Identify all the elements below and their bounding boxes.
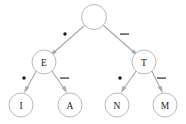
edge-label-e-a-dash bbox=[60, 77, 69, 79]
edge-label-e-i-dot bbox=[22, 76, 25, 79]
edge-label-root-e-dot bbox=[63, 32, 66, 35]
edge-label-t-m-dash bbox=[157, 77, 166, 79]
edge-line-root-t bbox=[104, 26, 137, 55]
node-m[interactable]: M bbox=[153, 93, 177, 117]
node-a-label: A bbox=[67, 101, 74, 111]
node-root-circle[interactable] bbox=[82, 5, 107, 30]
edge-label-root-t-dash bbox=[120, 33, 129, 35]
node-i[interactable]: I bbox=[9, 93, 33, 117]
node-i-label: I bbox=[19, 101, 22, 111]
edge-t-to-m bbox=[152, 71, 167, 94]
node-m-label: M bbox=[161, 101, 170, 111]
node-e[interactable]: E bbox=[32, 50, 56, 74]
node-t-label: T bbox=[141, 58, 147, 68]
tree-graphic: E T I A N M bbox=[0, 0, 186, 124]
edge-e-to-i bbox=[22, 71, 36, 94]
edge-root-to-e bbox=[49, 26, 84, 57]
morse-code-tree-diagram: E T I A N M bbox=[0, 0, 186, 124]
node-t[interactable]: T bbox=[132, 50, 156, 74]
node-a[interactable]: A bbox=[58, 93, 82, 117]
edge-root-to-t bbox=[104, 26, 139, 57]
nodes-group: E T I A N M bbox=[9, 5, 177, 118]
arrowhead-e-i bbox=[24, 86, 29, 93]
edge-line-root-e bbox=[52, 26, 85, 55]
node-n[interactable]: N bbox=[105, 93, 129, 117]
node-e-label: E bbox=[41, 58, 47, 68]
edge-t-to-n bbox=[118, 71, 136, 94]
arrowhead-t-m bbox=[158, 86, 163, 93]
edge-e-to-a bbox=[52, 71, 70, 94]
node-root[interactable] bbox=[82, 5, 107, 30]
node-n-label: N bbox=[114, 101, 121, 111]
edge-label-t-n-dot bbox=[118, 76, 121, 79]
